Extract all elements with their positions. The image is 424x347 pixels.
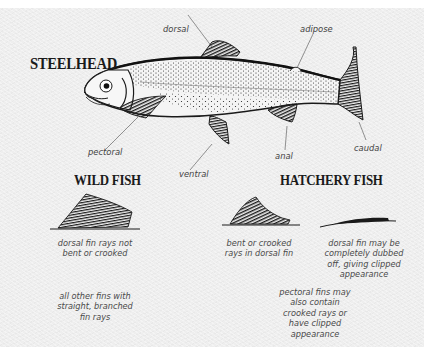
wild-fish-heading: WILD FISH — [74, 172, 141, 189]
hatchery-pectoral-note: pectoral fins may also contain crooked r… — [270, 287, 360, 339]
label-pectoral: pectoral — [88, 148, 122, 156]
label-ventral: ventral — [179, 170, 209, 178]
label-dorsal: dorsal — [163, 25, 189, 33]
hatchery-fish-heading: HATCHERY FISH — [280, 172, 383, 189]
hatchery-clipped-note: dorsal fin may be completely dubbed off,… — [316, 238, 412, 280]
wild-dorsal-fin — [50, 194, 140, 229]
label-anal: anal — [275, 152, 293, 160]
steelhead-title: STEELHEAD — [30, 54, 117, 74]
hatchery-bent-note: bent or crooked rays in dorsal fin — [214, 238, 304, 259]
wild-fin-note: dorsal fin rays not bent or crooked — [40, 238, 150, 259]
hatchery-bent-dorsal-fin — [222, 197, 300, 225]
label-caudal: caudal — [354, 144, 382, 152]
hatchery-clipped-dorsal-fin — [320, 218, 396, 227]
wild-other-fins-note: all other fins with straight, branched f… — [40, 291, 150, 322]
label-adipose: adipose — [300, 25, 333, 33]
